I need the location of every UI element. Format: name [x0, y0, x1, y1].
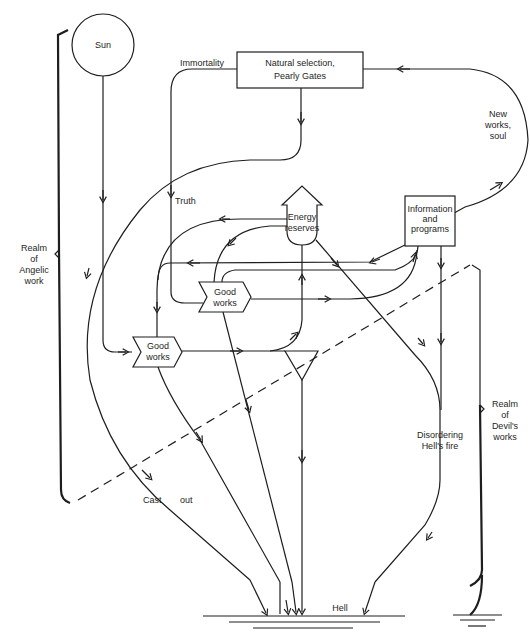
immortality-label: Immortality [180, 58, 225, 68]
realm-boundary-dashed [78, 265, 470, 500]
angelic-realm-label: Realm of Angelic work [19, 243, 49, 286]
svg-text:Information: Information [407, 204, 452, 214]
svg-text:works: works [492, 432, 517, 442]
energy-flow-diagram: Realm of Angelic work Sun Natural select… [0, 0, 530, 644]
svg-text:New: New [489, 109, 508, 119]
cast-out-flow [87, 88, 301, 580]
svg-text:Natural selection,: Natural selection, [265, 58, 335, 68]
truth-label: Truth [175, 196, 196, 206]
svg-text:Hell's fire: Hell's fire [422, 441, 459, 451]
svg-text:work: work [23, 276, 44, 286]
svg-text:works: works [212, 298, 237, 308]
svg-text:Good: Good [214, 287, 236, 297]
svg-text:Energy: Energy [288, 212, 317, 222]
immortality-flow [171, 69, 237, 303]
devil-realm-bracket [470, 265, 484, 586]
devil-ground [453, 575, 502, 626]
svg-text:of: of [30, 254, 38, 264]
new-works-soul-label: New works, soul [484, 109, 511, 141]
svg-text:Realm: Realm [21, 243, 47, 253]
svg-text:Pearly Gates: Pearly Gates [274, 71, 327, 81]
out-label: out [180, 495, 193, 505]
upper-works-to-info [251, 250, 417, 299]
junction-to-reserves [270, 245, 302, 351]
svg-text:soul: soul [490, 131, 507, 141]
svg-text:Realm: Realm [492, 399, 518, 409]
disordering-flow [316, 240, 440, 582]
svg-text:programs: programs [411, 224, 450, 234]
svg-text:Angelic: Angelic [19, 265, 49, 275]
svg-text:Devil's: Devil's [492, 421, 519, 431]
information-programs-node: Information and programs [405, 196, 455, 246]
cast-label: Cast [143, 495, 162, 505]
svg-text:Disordering: Disordering [417, 430, 463, 440]
hell-label: Hell [332, 603, 348, 613]
svg-text:works: works [145, 352, 170, 362]
svg-text:Sun: Sun [95, 40, 111, 50]
natural-selection-node: Natural selection, Pearly Gates [237, 52, 363, 88]
good-works-lower-node: Good works [133, 337, 182, 367]
good-works-upper-node: Good works [199, 282, 251, 312]
disordering-label: Disordering Hell's fire [417, 430, 463, 451]
hell-arrows [250, 580, 375, 614]
lower-works-to-hell [158, 367, 280, 582]
svg-text:works,: works, [484, 120, 511, 130]
svg-text:Good: Good [147, 341, 169, 351]
energy-reserves-node: Energy reserves [282, 186, 322, 245]
svg-text:reserves: reserves [285, 223, 320, 233]
hell-ground [203, 616, 405, 628]
sun-node: Sun [72, 14, 134, 76]
sun-flow [103, 76, 132, 352]
svg-text:and: and [422, 214, 437, 224]
angelic-realm-bracket [55, 30, 70, 503]
svg-text:of: of [501, 410, 509, 420]
devil-realm-label: Realm of Devil's works [492, 399, 519, 442]
info-to-upper-works [222, 246, 418, 282]
